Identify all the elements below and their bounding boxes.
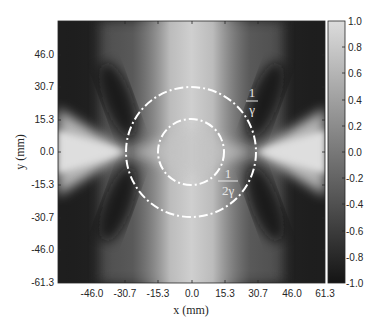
- svg-text:-61.3: -61.3: [31, 277, 54, 288]
- svg-text:-0.2: -0.2: [346, 173, 364, 184]
- svg-text:46.0: 46.0: [282, 288, 302, 299]
- x-tick-labels: -46.0 -30.7 -15.3 0.0 15.3 30.7 46.0 61.…: [81, 288, 336, 299]
- svg-text:1: 1: [225, 166, 232, 181]
- svg-text:1.0: 1.0: [348, 16, 362, 27]
- svg-text:46.0: 46.0: [35, 49, 55, 60]
- svg-text:2γ: 2γ: [222, 183, 235, 198]
- heatmap-figure: 1 γ 1 2γ -46.0 -30.7 -15.3 0.0 15.3 30.7…: [0, 0, 383, 332]
- svg-text:61.3: 61.3: [315, 288, 335, 299]
- x-axis-label: x (mm): [173, 303, 209, 317]
- svg-text:0.0: 0.0: [185, 288, 199, 299]
- svg-text:30.7: 30.7: [248, 288, 268, 299]
- svg-text:-15.3: -15.3: [31, 179, 54, 190]
- y-tick-labels: 46.0 30.7 15.3 0.0 -15.3 -30.7 -46.0 -61…: [31, 49, 54, 288]
- svg-text:0.2: 0.2: [348, 121, 362, 132]
- svg-text:-46.0: -46.0: [31, 244, 54, 255]
- svg-text:0.0: 0.0: [348, 147, 362, 158]
- svg-text:-30.7: -30.7: [31, 212, 54, 223]
- svg-text:-46.0: -46.0: [81, 288, 104, 299]
- svg-text:-1.0: -1.0: [346, 278, 364, 289]
- heatmap-image: [58, 21, 325, 283]
- colorbar: 1.0 0.8 0.6 0.4 0.2 0.0 -0.2 -0.4 -0.6 -…: [328, 16, 364, 289]
- svg-text:γ: γ: [248, 102, 255, 117]
- svg-text:-15.3: -15.3: [147, 288, 170, 299]
- svg-text:0.4: 0.4: [348, 95, 362, 106]
- svg-text:0.6: 0.6: [348, 68, 362, 79]
- svg-text:-0.6: -0.6: [346, 226, 364, 237]
- svg-text:15.3: 15.3: [35, 114, 55, 125]
- svg-text:30.7: 30.7: [35, 81, 55, 92]
- y-axis-label: y (mm): [13, 134, 27, 170]
- svg-text:-0.8: -0.8: [346, 252, 364, 263]
- svg-text:-30.7: -30.7: [114, 288, 137, 299]
- svg-text:-0.4: -0.4: [346, 199, 364, 210]
- svg-text:15.3: 15.3: [215, 288, 235, 299]
- svg-text:1: 1: [249, 85, 256, 100]
- svg-text:0.8: 0.8: [348, 42, 362, 53]
- svg-text:0.0: 0.0: [40, 146, 54, 157]
